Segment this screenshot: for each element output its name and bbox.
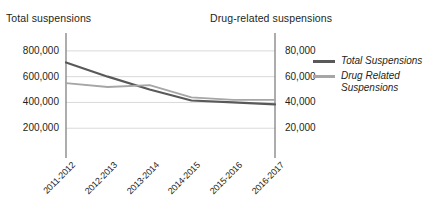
- left-tick-label: 400,000: [23, 97, 59, 107]
- right-axis-title: Drug-related suspensions: [210, 12, 332, 24]
- chart-figure: Total suspensions Drug-related suspensio…: [0, 0, 447, 216]
- chart-legend: Total SuspensionsDrug Related Suspension…: [313, 55, 445, 97]
- x-tick-label: 2015-2016: [208, 160, 244, 196]
- x-tick-label: 2013-2014: [124, 160, 160, 196]
- right-tick-label: 20,000: [285, 123, 316, 133]
- legend-label: Total Suspensions: [341, 55, 422, 67]
- legend-label: Drug Related Suspensions: [341, 70, 445, 94]
- x-tick-label: 2016-2017: [250, 160, 286, 196]
- line-chart-svg: [66, 38, 275, 154]
- series-line-2: [66, 83, 275, 100]
- legend-item: Drug Related Suspensions: [313, 70, 445, 94]
- right-tick-label: 60,000: [285, 72, 316, 82]
- series-line-1: [66, 62, 275, 104]
- right-tick-label: 40,000: [285, 97, 316, 107]
- x-tick-label: 2014-2015: [166, 160, 202, 196]
- legend-item: Total Suspensions: [313, 55, 445, 67]
- right-tick-label: 80,000: [285, 46, 316, 56]
- plot-area: 200,000400,000600,000800,000 20,00040,00…: [66, 38, 275, 154]
- left-tick-label: 800,000: [23, 46, 59, 56]
- x-tick-label: 2011-2012: [41, 160, 77, 196]
- left-tick-label: 200,000: [23, 123, 59, 133]
- left-tick-label: 600,000: [23, 72, 59, 82]
- legend-swatch-icon: [313, 60, 335, 63]
- left-axis-title: Total suspensions: [6, 12, 91, 24]
- legend-swatch-icon: [313, 75, 335, 78]
- x-tick-label: 2012-2013: [83, 160, 119, 196]
